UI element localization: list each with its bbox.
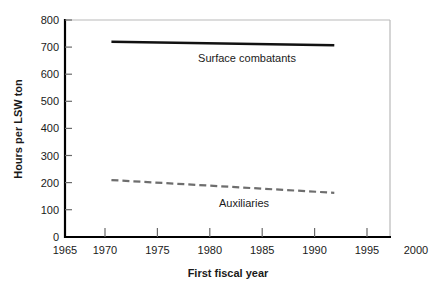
series-line-auxiliaries [111, 180, 334, 193]
x-axis-tick-labels: 1965 1970 1975 1980 1985 1990 1995 2000 [53, 244, 428, 256]
x-tick-label: 1970 [93, 244, 117, 256]
y-tick-label: 700 [41, 41, 59, 53]
series-label-surface-combatants: Surface combatants [198, 52, 296, 64]
series-line-surface-combatants [111, 42, 334, 46]
y-tick-label: 300 [41, 150, 59, 162]
y-tick-label: 100 [41, 204, 59, 216]
y-axis-title: Hours per LSW ton [12, 79, 24, 179]
y-tick-label: 0 [53, 231, 59, 243]
x-tick-label: 1980 [198, 244, 222, 256]
y-tick-label: 600 [41, 68, 59, 80]
series-label-auxiliaries: Auxiliaries [219, 197, 270, 209]
chart-container: 800 700 600 500 400 300 200 100 0 1965 1… [0, 0, 442, 288]
x-tick-label: 1965 [53, 244, 77, 256]
y-axis-tick-labels: 800 700 600 500 400 300 200 100 0 [41, 14, 59, 243]
x-tick-label: 1990 [302, 244, 326, 256]
line-chart: 800 700 600 500 400 300 200 100 0 1965 1… [0, 0, 442, 288]
x-tick-label: 2000 [404, 244, 428, 256]
y-tick-label: 500 [41, 95, 59, 107]
y-tick-label: 400 [41, 122, 59, 134]
x-axis-title: First fiscal year [188, 267, 269, 279]
y-tick-label: 800 [41, 14, 59, 26]
x-tick-label: 1975 [145, 244, 169, 256]
y-tick-label: 200 [41, 177, 59, 189]
x-tick-label: 1985 [250, 244, 274, 256]
x-axis-ticks [105, 228, 367, 237]
x-tick-label: 1995 [355, 244, 379, 256]
